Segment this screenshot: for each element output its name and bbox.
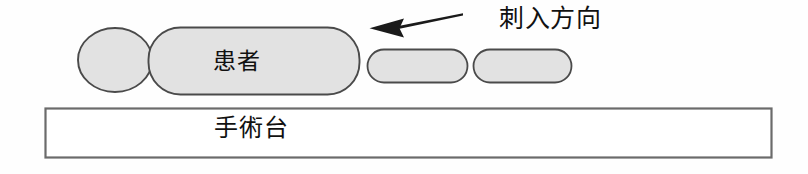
- diagram-canvas: 患者 手術台 刺入方向: [0, 0, 808, 174]
- insertion-direction-arrow: [370, 13, 464, 37]
- operating-table-label: 手術台: [214, 116, 289, 140]
- leg-segment-lower: [474, 50, 572, 83]
- arrow-tail: [396, 13, 463, 29]
- patient-label: 患者: [213, 50, 261, 73]
- operating-table-rectangle: [46, 109, 772, 158]
- insertion-direction-label: 刺入方向: [499, 6, 601, 31]
- arrow-head-icon: [370, 19, 405, 38]
- diagram-vector-layer: [0, 0, 808, 174]
- head-ellipse: [78, 28, 152, 92]
- leg-segment-upper: [368, 50, 468, 83]
